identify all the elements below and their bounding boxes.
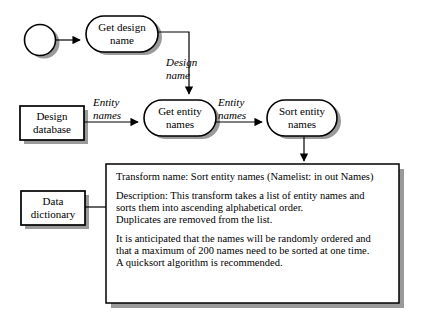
spec-line-description-2: sorts them into ascending alphabetical o… [116, 202, 394, 214]
data-dictionary-shape[interactable] [21, 191, 85, 225]
spec-gap-2 [116, 226, 394, 233]
spec-line-description-1: Description: This transform takes a list… [116, 190, 394, 202]
design-database-shape[interactable] [20, 106, 84, 140]
get-entity-names-shape[interactable] [144, 100, 216, 136]
diagram-graphics [0, 0, 426, 330]
spec-gap-1 [116, 183, 394, 190]
spec-line-notes-1: It is anticipated that the names will be… [116, 233, 394, 245]
spec-line-description-3: Duplicates are removed from the list. [116, 214, 394, 226]
edge-get-design-name-to-get-entity-names [158, 32, 189, 94]
spec-line-transform-name: Transform name: Sort entity names (Namel… [116, 171, 394, 183]
get-design-name-shape[interactable] [86, 16, 158, 52]
spec-line-notes-2: that a maximum of 200 names need to be s… [116, 245, 394, 257]
start-circle[interactable] [25, 25, 56, 56]
diagram-canvas: Get design name Design database Get enti… [0, 0, 426, 330]
sort-entity-names-shape[interactable] [267, 100, 337, 136]
spec-box-text: Transform name: Sort entity names (Namel… [116, 171, 394, 269]
spec-line-notes-3: A quicksort algorithm is recommended. [116, 257, 394, 269]
